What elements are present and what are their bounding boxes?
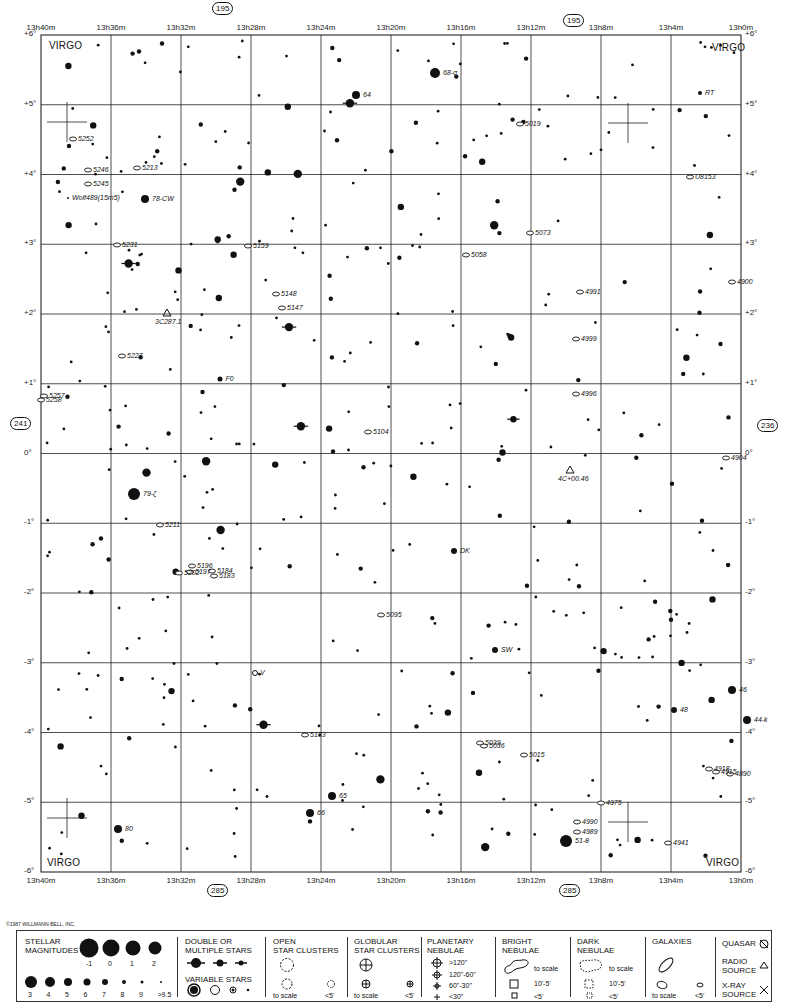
star	[207, 594, 210, 597]
legend-divider	[177, 937, 178, 997]
star	[698, 531, 701, 534]
star	[634, 456, 638, 460]
dec-label-right: -5°	[745, 796, 755, 805]
ra-label-top: 13h4m	[659, 23, 683, 32]
star	[518, 648, 521, 651]
star	[600, 148, 603, 151]
star	[330, 355, 334, 359]
star-66	[306, 809, 314, 817]
star	[446, 483, 449, 486]
star	[57, 688, 60, 691]
star	[131, 268, 134, 271]
star	[189, 324, 193, 328]
star	[420, 233, 423, 236]
star	[56, 180, 60, 184]
ra-label-bottom: 13h0m	[729, 876, 753, 885]
star	[187, 45, 190, 48]
star	[568, 578, 571, 581]
star	[65, 63, 71, 69]
star	[107, 331, 110, 334]
dark-nebula-symbols	[577, 957, 607, 1001]
dec-label-left: -3°	[24, 657, 34, 666]
star-65	[328, 792, 336, 800]
star	[709, 267, 712, 270]
star	[567, 95, 570, 98]
ra-label-bottom: 13h24m	[307, 876, 336, 885]
galaxy-4918	[706, 767, 713, 771]
star	[677, 108, 681, 112]
star	[65, 395, 69, 399]
star	[646, 719, 649, 722]
star	[330, 46, 334, 50]
star	[104, 385, 107, 388]
star	[138, 254, 141, 257]
star	[495, 199, 499, 203]
star-DK	[451, 548, 457, 554]
galaxy-label: 5148	[281, 290, 297, 298]
star-51-θ	[560, 835, 572, 847]
star	[163, 683, 166, 686]
galaxy-4900	[729, 280, 736, 284]
page-ref-bottom-left: 285	[207, 884, 228, 897]
galaxy-label: 4996	[581, 390, 597, 398]
star	[670, 482, 674, 486]
star	[704, 114, 708, 118]
magnitude-label: 9	[139, 991, 143, 998]
magnitude-label: 2	[152, 960, 156, 967]
galaxy-5015	[521, 753, 528, 757]
ra-label-top: 13h16m	[447, 23, 476, 32]
star	[47, 386, 50, 389]
star	[78, 590, 81, 593]
star-78-CW	[141, 195, 149, 203]
magnitude-dot	[80, 939, 99, 958]
star	[653, 600, 657, 604]
star	[459, 402, 462, 405]
star	[397, 312, 400, 315]
star	[683, 355, 689, 361]
double-variable-symbols	[185, 955, 255, 1001]
star	[290, 230, 293, 233]
star	[62, 166, 66, 170]
radio-source-label: 4C+00.46	[558, 475, 589, 483]
star	[233, 789, 236, 792]
star	[596, 669, 600, 673]
galaxy-symbols	[652, 953, 712, 993]
star	[355, 752, 358, 755]
galaxy-label: 4941	[673, 839, 689, 847]
star	[565, 614, 568, 617]
star	[238, 324, 241, 327]
star	[567, 520, 571, 524]
star	[216, 295, 222, 301]
star	[718, 196, 721, 199]
star	[417, 787, 420, 790]
magnitude-label: 4	[47, 991, 51, 998]
galaxy-label: 5147	[287, 304, 303, 312]
star	[126, 647, 129, 650]
radio-source-icon	[566, 466, 574, 473]
star	[525, 389, 528, 392]
ra-label-bottom: 13h20m	[377, 876, 406, 885]
star	[490, 221, 498, 229]
radio-source-icon	[163, 309, 171, 316]
star	[658, 423, 661, 426]
open-cluster-small: <5'	[325, 992, 334, 999]
star	[564, 158, 567, 161]
star	[153, 533, 156, 536]
star	[160, 162, 163, 165]
star	[591, 779, 594, 782]
dec-label-left: 0°	[24, 448, 32, 457]
magnitude-dot	[149, 942, 162, 955]
star	[124, 405, 127, 408]
star	[534, 804, 537, 807]
star	[420, 442, 423, 445]
star	[334, 494, 337, 497]
star	[418, 246, 421, 249]
star	[288, 564, 292, 568]
dec-label-left: -5°	[24, 796, 34, 805]
star	[620, 606, 623, 609]
dark-nebula-mid: 10'-5'	[609, 980, 626, 987]
star	[426, 782, 429, 785]
ra-label-bottom: 13h4m	[659, 876, 683, 885]
star	[318, 725, 321, 728]
star	[576, 378, 580, 382]
